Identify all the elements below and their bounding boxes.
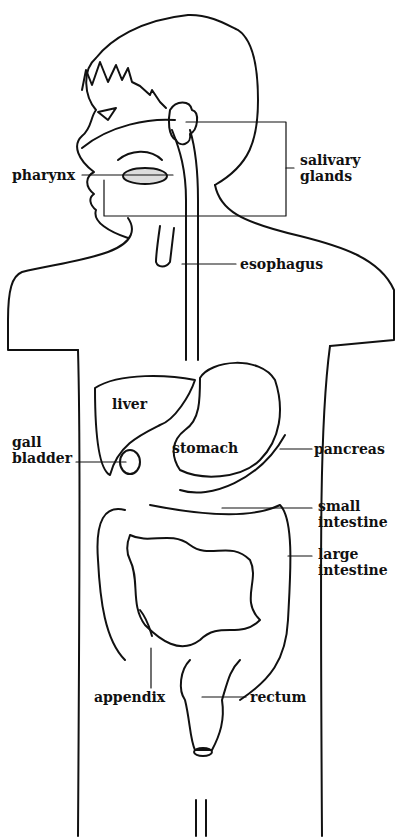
esophagus-tube-2	[190, 130, 198, 360]
nasal-palate	[82, 120, 175, 148]
label-rectum: rectum	[250, 689, 306, 705]
small-intestine	[127, 535, 260, 646]
label-large-line1: large	[318, 546, 388, 562]
label-gall-line1: gall	[12, 434, 72, 450]
crotch	[196, 800, 206, 836]
label-stomach: stomach	[172, 440, 238, 456]
rectum-organ	[181, 660, 240, 750]
digestive-system-drawing	[0, 0, 402, 837]
torso-right	[321, 346, 330, 836]
label-large-line2: intestine	[318, 562, 388, 578]
label-small-line2: intestine	[318, 514, 388, 530]
label-pancreas: pancreas	[314, 441, 385, 457]
liver-organ	[95, 376, 195, 475]
label-gall-line2: bladder	[12, 450, 72, 466]
torso-left	[78, 350, 80, 836]
label-appendix: appendix	[94, 689, 165, 705]
hair-strands	[82, 62, 166, 108]
jaw-to-chin	[8, 218, 132, 350]
esophagus-tube	[172, 130, 186, 360]
label-salivary-line2: glands	[300, 168, 360, 184]
label-salivary-line1: salivary	[300, 152, 360, 168]
trachea	[156, 226, 174, 267]
label-liver: liver	[112, 396, 147, 412]
label-large-intestine: large intestine	[318, 546, 388, 578]
tongue	[118, 152, 162, 160]
label-salivary-glands: salivary glands	[300, 152, 360, 184]
label-small-intestine: small intestine	[318, 498, 388, 530]
label-esophagus: esophagus	[240, 256, 323, 272]
label-gall-bladder: gall bladder	[12, 434, 72, 466]
appendix-organ	[140, 610, 152, 636]
label-small-line1: small	[318, 498, 388, 514]
label-pharynx: pharynx	[12, 167, 75, 183]
eye	[98, 108, 116, 120]
sublingual-gland	[123, 168, 167, 184]
large-intestine	[97, 505, 290, 700]
